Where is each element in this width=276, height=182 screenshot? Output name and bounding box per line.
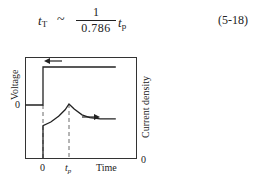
plot-frame bbox=[26, 58, 137, 159]
x-tick-zero: 0 bbox=[40, 162, 45, 173]
y-left-label: Voltage bbox=[9, 69, 20, 100]
x-tick-tp: tp bbox=[65, 162, 72, 175]
y-left-tick-zero: 0 bbox=[15, 99, 20, 110]
x-axis-label: Time bbox=[96, 162, 117, 173]
y-right-tick-zero: 0 bbox=[141, 154, 146, 165]
chart: Voltage 0 Current density 0 0 tp Time bbox=[0, 0, 276, 182]
current-density-series bbox=[43, 104, 116, 158]
voltage-arrow bbox=[44, 58, 62, 64]
voltage-series bbox=[26, 67, 116, 105]
y-right-label: Current density bbox=[140, 76, 151, 138]
